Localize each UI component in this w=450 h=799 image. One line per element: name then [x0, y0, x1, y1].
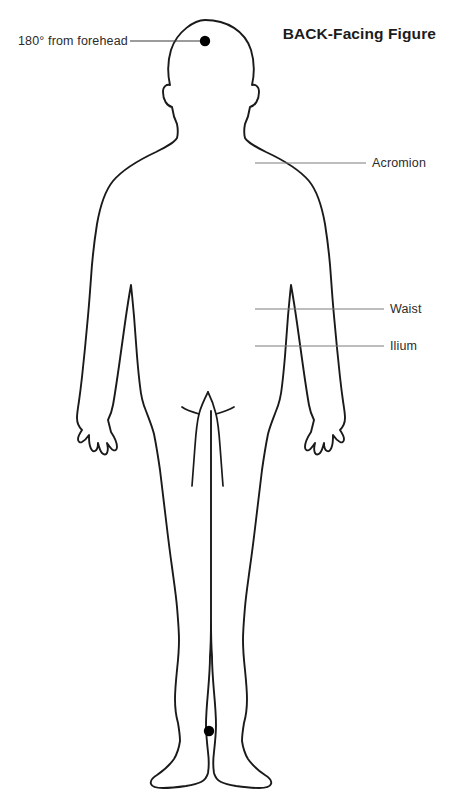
- body-silhouette-path: [77, 20, 345, 788]
- body-outline-illustration: [0, 0, 450, 799]
- label-waist: Waist: [390, 303, 422, 316]
- label-acromion: Acromion: [372, 157, 426, 170]
- head-vertex-dot: [200, 36, 210, 46]
- label-ilium: Ilium: [390, 340, 417, 353]
- label-forehead-marker: 180° from forehead: [18, 35, 128, 48]
- page-title: BACK-Facing Figure: [283, 25, 436, 43]
- ankle-midpoint-dot: [204, 726, 214, 736]
- figure-canvas: BACK-Facing Figure 180° from forehead Ac…: [0, 0, 450, 799]
